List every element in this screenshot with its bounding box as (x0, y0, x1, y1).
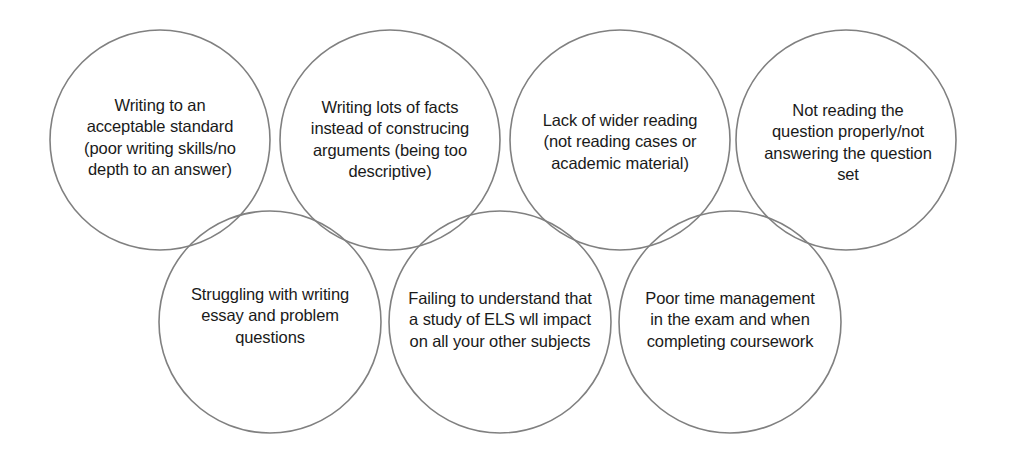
venn-circle-3 (510, 30, 730, 250)
venn-circle-2 (280, 30, 500, 250)
venn-diagram: Writing to an acceptable standard (poor … (0, 0, 1014, 455)
venn-circle-5 (159, 211, 381, 433)
venn-circles-svg (0, 0, 1014, 455)
venn-circle-4 (736, 30, 956, 250)
venn-circle-6 (389, 211, 611, 433)
venn-circle-1 (50, 30, 270, 250)
circles-group (50, 30, 956, 433)
venn-circle-7 (619, 211, 841, 433)
